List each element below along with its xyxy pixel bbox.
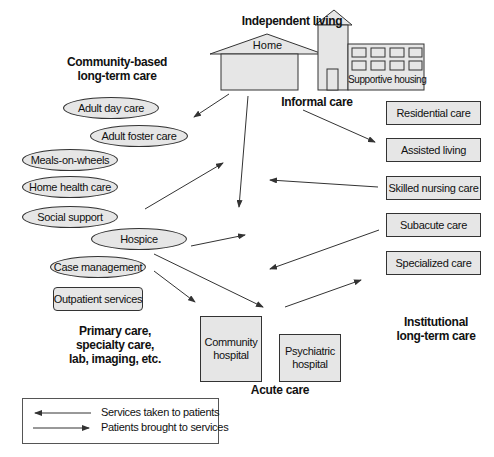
heading-primary-care: Primary care, specialty care, lab, imagi… bbox=[60, 324, 170, 366]
supportive-housing-label: Supportive housing bbox=[348, 74, 424, 85]
heading-acute-care: Acute care bbox=[240, 383, 320, 397]
box-subacute-care: Subacute care bbox=[386, 213, 481, 237]
heading-institutional-care: Institutional long-term care bbox=[386, 315, 486, 343]
oval-adult-day-care: Adult day care bbox=[63, 97, 159, 119]
oval-adult-foster-care: Adult foster care bbox=[90, 125, 188, 147]
oval-meals-on-wheels: Meals-on-wheels bbox=[22, 149, 118, 171]
heading-community-based-care: Community-based long-term care bbox=[62, 55, 172, 83]
oval-case-management: Case management bbox=[50, 256, 146, 278]
box-outpatient-services: Outpatient services bbox=[53, 287, 143, 311]
box-specialized-care: Specialized care bbox=[386, 251, 481, 275]
heading-informal-care: Informal care bbox=[272, 95, 362, 109]
box-residential-care: Residential care bbox=[386, 101, 481, 125]
box-assisted-living: Assisted living bbox=[386, 138, 481, 162]
legend-services-to-patients: Services taken to patients bbox=[101, 406, 219, 418]
oval-home-health-care: Home health care bbox=[22, 176, 118, 198]
oval-social-support: Social support bbox=[22, 206, 118, 228]
box-psychiatric-hospital: Psychiatric hospital bbox=[279, 334, 341, 382]
oval-hospice: Hospice bbox=[91, 228, 187, 250]
legend: Services taken to patients Patients brou… bbox=[22, 398, 219, 444]
continuum-of-care-diagram: Independent living Community-based long-… bbox=[0, 0, 494, 457]
legend-patients-to-services: Patients brought to services bbox=[101, 421, 228, 433]
heading-independent-living: Independent living bbox=[237, 14, 347, 28]
box-skilled-nursing-care: Skilled nursing care bbox=[386, 176, 481, 200]
box-community-hospital: Community hospital bbox=[200, 316, 262, 382]
home-label: Home bbox=[240, 39, 295, 51]
